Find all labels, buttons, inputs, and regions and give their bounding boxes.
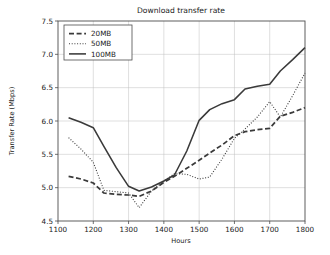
x-tick-label: 1800 bbox=[296, 225, 315, 234]
y-tick-label: 5.5 bbox=[42, 150, 53, 159]
y-tick-label: 7.0 bbox=[42, 50, 54, 59]
chart-canvas: Download transfer rate 11001200130014001… bbox=[0, 0, 330, 255]
chart-figure: Download transfer rate 11001200130014001… bbox=[0, 0, 330, 255]
y-tick-label: 6.5 bbox=[42, 83, 53, 92]
y-tick-label: 4.5 bbox=[42, 217, 53, 226]
legend-label-100mb: 100MB bbox=[91, 50, 116, 59]
y-tick-label: 7.5 bbox=[42, 17, 53, 26]
x-tick-label: 1700 bbox=[261, 225, 280, 234]
x-tick-label: 1500 bbox=[190, 225, 209, 234]
chart-legend[interactable]: 20MB50MB100MB bbox=[64, 25, 132, 60]
x-tick-label: 1300 bbox=[119, 225, 138, 234]
x-tick-label: 1400 bbox=[155, 225, 174, 234]
legend-label-20mb: 20MB bbox=[91, 29, 111, 38]
x-tick-label: 1600 bbox=[225, 225, 244, 234]
y-tick-label: 5.0 bbox=[42, 183, 54, 192]
legend-label-50mb: 50MB bbox=[91, 39, 111, 48]
x-axis-label: Hours bbox=[171, 237, 191, 245]
y-tick-label: 6.0 bbox=[42, 117, 54, 126]
x-tick-label: 1100 bbox=[49, 225, 68, 234]
chart-title: Download transfer rate bbox=[137, 6, 225, 15]
y-axis-label: Transfer Rate (Mbps) bbox=[8, 87, 16, 156]
x-tick-label: 1200 bbox=[84, 225, 103, 234]
